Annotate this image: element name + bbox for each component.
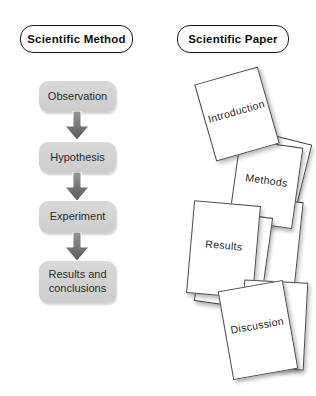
scientific-paper-title: Scientific Paper: [177, 25, 289, 53]
page-results-label: Results: [191, 236, 257, 254]
flow-box-observation-label: Observation: [48, 90, 107, 104]
page-methods-label: Methods: [235, 170, 298, 191]
down-arrow-icon: [64, 172, 90, 202]
flow-box-experiment-label: Experiment: [50, 210, 106, 224]
scientific-method-title-text: Scientific Method: [27, 33, 126, 45]
scientific-paper-title-text: Scientific Paper: [188, 33, 277, 45]
flow-box-observation: Observation: [39, 81, 116, 112]
flow-box-experiment: Experiment: [39, 201, 116, 233]
flow-box-results-conclusions-label: Results and conclusions: [45, 268, 110, 296]
page-introduction-label: Introduction: [204, 96, 269, 125]
flow-box-hypothesis: Hypothesis: [39, 142, 116, 173]
flow-box-results-conclusions: Results and conclusions: [39, 261, 116, 303]
down-arrow-icon: [64, 232, 90, 262]
page-discussion-label: Discussion: [225, 314, 290, 337]
figure-scientific-method-vs-paper: Scientific Method Observation Hypothesis…: [0, 0, 316, 396]
flow-box-hypothesis-label: Hypothesis: [50, 151, 104, 165]
scientific-method-title: Scientific Method: [20, 25, 133, 53]
down-arrow-icon: [64, 111, 90, 141]
